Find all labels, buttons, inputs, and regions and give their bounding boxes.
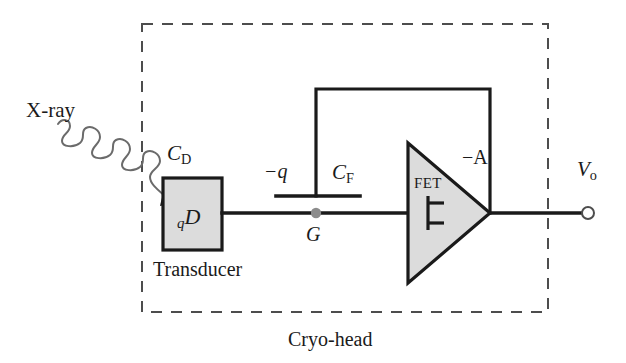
label-gain: −A bbox=[462, 147, 488, 167]
label-vo-main: V bbox=[577, 157, 590, 181]
label-vo-subscript: o bbox=[590, 167, 597, 183]
label-fet: FET bbox=[414, 176, 442, 191]
label-cf-main: C bbox=[332, 160, 346, 184]
label-cd-main: C bbox=[167, 141, 181, 165]
label-gate-node: G bbox=[306, 224, 320, 244]
label-transducer: Transducer bbox=[153, 259, 242, 279]
output-terminal-circle[interactable] bbox=[582, 207, 594, 219]
label-qd-prefix: q bbox=[177, 215, 184, 231]
label-qd-main: D bbox=[184, 204, 200, 229]
label-detector-charge: qD bbox=[177, 206, 200, 228]
label-detector-capacitance: CD bbox=[167, 143, 191, 164]
gate-node-dot bbox=[311, 208, 321, 218]
label-feedback-capacitance: CF bbox=[332, 162, 354, 183]
label-xray: X-ray bbox=[26, 100, 75, 121]
schematic-canvas bbox=[0, 0, 626, 363]
label-feedback-charge: −q bbox=[264, 161, 288, 181]
label-output-voltage: Vo bbox=[577, 159, 597, 180]
xray-wavy-arrow bbox=[58, 120, 176, 206]
label-cryo-head: Cryo-head bbox=[288, 329, 372, 349]
label-cd-subscript: D bbox=[181, 151, 191, 167]
circuit-diagram: X-ray CD qD Transducer −q CF G FET −A Vo… bbox=[0, 0, 626, 363]
label-cf-subscript: F bbox=[346, 170, 354, 186]
